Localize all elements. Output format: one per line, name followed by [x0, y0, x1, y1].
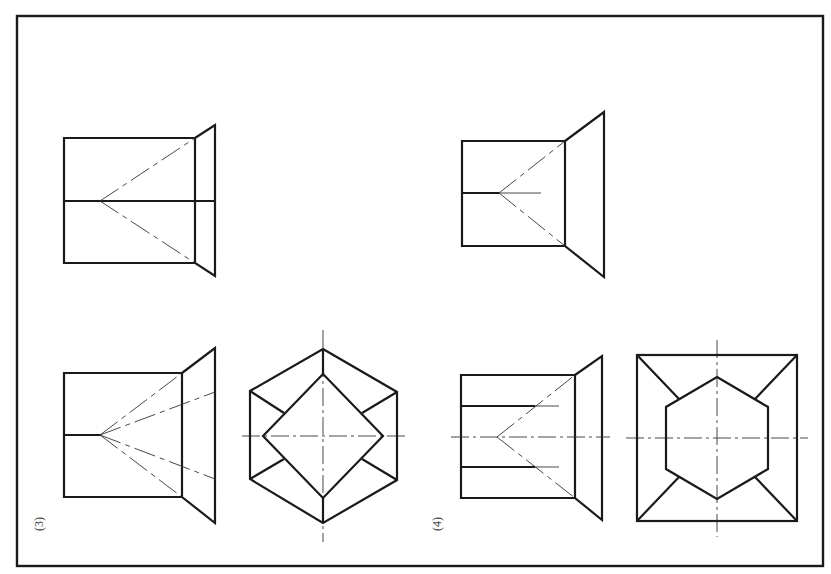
diagonal-lower-right	[755, 477, 797, 521]
figure-3-front-view	[64, 348, 215, 523]
connector-upper-left	[250, 391, 284, 413]
sheet-frame	[17, 16, 823, 566]
connector-lower-left	[250, 459, 284, 479]
cone-generator-4	[100, 435, 182, 497]
diagonal-upper-left	[637, 355, 679, 399]
cone-outline	[565, 112, 604, 277]
cone-generator-lower	[100, 201, 195, 263]
cone-generator-2	[100, 392, 215, 435]
cone-outline	[575, 356, 602, 520]
figure-3-label: (3)	[32, 517, 46, 531]
connector-lower-right	[362, 459, 397, 480]
connector-upper-right	[362, 392, 397, 413]
figure-4-front-view	[451, 356, 610, 520]
diagonal-lower-left	[637, 477, 679, 521]
figure-4-side-view	[626, 340, 808, 537]
cone-generator-3	[100, 435, 215, 479]
figure-2-front-view	[462, 112, 604, 277]
diagonal-upper-right	[755, 355, 797, 399]
figure-3-side-view	[242, 330, 409, 542]
cylinder-outline	[461, 375, 575, 498]
cone-outline	[182, 348, 215, 523]
cone-generator-1	[100, 373, 182, 435]
figure-4-label: (4)	[430, 517, 444, 531]
figure-1-front-view	[64, 125, 215, 276]
cone-generator-upper	[100, 138, 195, 201]
drawing-sheet: (3) (4)	[0, 0, 831, 574]
cone-generator-lower	[499, 193, 565, 246]
cone-generator-upper	[499, 141, 565, 193]
